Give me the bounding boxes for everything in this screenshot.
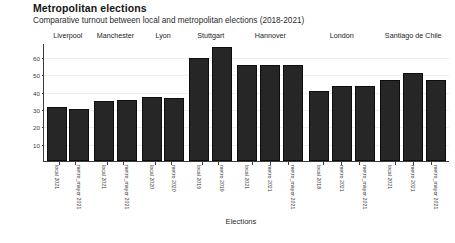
bar <box>355 86 375 161</box>
facet-strip-label: Liverpool <box>44 31 92 44</box>
y-axis: 102030405060 <box>33 44 44 162</box>
x-axis-tick-label: local 2021 <box>237 165 257 211</box>
x-axis-tick-label: metro 2021 <box>332 165 352 211</box>
x-axis-tick-label-text: metro 2020 <box>171 165 177 192</box>
facet-hannover: Hannoverlocal 2021metro 2021metro_mayor … <box>235 31 306 211</box>
x-axis-tick-labels: local 2019metro 2019 <box>187 165 235 211</box>
bar <box>260 65 280 161</box>
bar <box>426 80 446 161</box>
x-axis-tick-label: local 2019 <box>189 165 209 211</box>
facet-panel <box>44 44 92 162</box>
chart-page: Metropolitan elections Comparative turno… <box>0 0 455 243</box>
bar <box>283 65 303 161</box>
x-axis-tick-label-text: metro_mayor 2021 <box>76 165 82 209</box>
bar <box>237 65 257 161</box>
x-axis-tick-label-text: metro 2021 <box>339 165 345 192</box>
bar <box>47 107 67 161</box>
x-axis-tick-label: local 2021 <box>94 165 114 211</box>
facet-manchester: Manchesterlocal 2021metro_mayor 2021 <box>92 31 140 211</box>
bar <box>69 109 89 161</box>
facet-strip-label: Manchester <box>92 31 140 44</box>
bar <box>94 101 114 161</box>
facet-strip-label: Stuttgart <box>187 31 235 44</box>
bar <box>309 91 329 161</box>
bar <box>189 58 209 161</box>
x-axis-tick-label: metro 2019 <box>212 165 232 211</box>
facet-strip-label: Hannover <box>235 31 306 44</box>
y-axis-tick-label: 20 <box>33 124 40 131</box>
bar <box>142 97 162 161</box>
x-axis-tick-label: local 2021 <box>47 165 67 211</box>
facet-panel <box>139 44 187 162</box>
x-axis-tick-labels: local 2021metro 2021metro_mayor 2021 <box>235 165 306 211</box>
facet-strip-label: London <box>306 31 377 44</box>
facet-stuttgart: Stuttgartlocal 2019metro 2019 <box>187 31 235 211</box>
x-axis-tick-labels: local 2018metro 2021metro_mayor 2021 <box>306 165 377 211</box>
x-axis-tick-labels: local 2021metro_mayor 2021 <box>44 165 92 211</box>
facet-london: Londonlocal 2018metro 2021metro_mayor 20… <box>306 31 377 211</box>
facet-liverpool: Liverpoollocal 2021metro_mayor 2021 <box>44 31 92 211</box>
x-axis-tick-label-text: metro 2019 <box>219 165 225 192</box>
x-axis-tick-label-text: local 2021 <box>101 165 107 189</box>
facet-strip-label: Santiago de Chile <box>378 31 449 44</box>
x-axis-tick-label: metro 2021 <box>260 165 280 211</box>
bar <box>380 80 400 161</box>
chart-title: Metropolitan elections <box>33 2 147 14</box>
x-axis-tick-label: local 2020 <box>142 165 162 211</box>
bar-group <box>44 44 92 161</box>
bar-group <box>235 44 306 161</box>
x-axis-tick-label: metro_mayor 2021 <box>69 165 89 211</box>
x-axis-tick-label: metro_mayor 2021 <box>426 165 446 211</box>
x-axis-tick-label: metro_mayor 2021 <box>117 165 137 211</box>
x-axis-tick-label-text: metro 2021 <box>410 165 416 192</box>
x-axis-tick-label-text: local 2020 <box>149 165 155 189</box>
x-axis-tick-label-text: metro 2021 <box>267 165 273 192</box>
bar <box>164 98 184 161</box>
x-axis-tick-label: metro 2020 <box>164 165 184 211</box>
x-axis-tick-label-text: metro_mayor 2021 <box>124 165 130 209</box>
bar-group <box>139 44 187 161</box>
y-axis-tick-label: 10 <box>33 141 40 148</box>
bar-group <box>92 44 140 161</box>
x-axis-tick-label-text: metro_mayor 2021 <box>290 165 296 209</box>
x-axis-tick-labels: local 2021metro 2021metro_mayor 2021 <box>378 165 449 211</box>
facet-panel <box>187 44 235 162</box>
facet-panel <box>235 44 306 162</box>
x-axis-tick-label-text: metro_mayor 2021 <box>362 165 368 209</box>
x-axis-tick-labels: local 2021metro_mayor 2021 <box>92 165 140 211</box>
x-axis-tick-label: metro 2021 <box>403 165 423 211</box>
x-axis-tick-label-text: metro_mayor 2021 <box>433 165 439 209</box>
y-axis-tick-label: 50 <box>33 72 40 79</box>
chart-subtitle: Comparative turnout between local and me… <box>33 16 304 25</box>
facet-row: Liverpoollocal 2021metro_mayor 2021Manch… <box>44 31 449 211</box>
x-axis-tick-labels: local 2020metro 2020 <box>139 165 187 211</box>
x-axis-tick-label-text: local 2018 <box>316 165 322 189</box>
bar <box>403 73 423 161</box>
x-axis-tick-label-text: local 2021 <box>387 165 393 189</box>
x-axis-tick-label-text: local 2021 <box>54 165 60 189</box>
bar <box>117 100 137 161</box>
y-axis-tick-label: 40 <box>33 89 40 96</box>
x-axis-tick-label: local 2021 <box>380 165 400 211</box>
facet-strip-label: Lyon <box>139 31 187 44</box>
x-axis-title: Elections <box>33 217 449 226</box>
facet-panel <box>92 44 140 162</box>
bar-group <box>306 44 377 161</box>
facet-santiago-de-chile: Santiago de Chilelocal 2021metro 2021met… <box>378 31 449 211</box>
bar <box>212 47 232 161</box>
x-axis-tick-label-text: local 2019 <box>196 165 202 189</box>
y-axis-tick-label: 30 <box>33 106 40 113</box>
bar-group <box>187 44 235 161</box>
facet-panel <box>306 44 377 162</box>
x-axis-tick-label: local 2018 <box>309 165 329 211</box>
y-axis-tick-label: 60 <box>33 54 40 61</box>
x-axis-tick-label: metro_mayor 2021 <box>283 165 303 211</box>
x-axis-tick-label: metro_mayor 2021 <box>355 165 375 211</box>
facet-lyon: Lyonlocal 2020metro 2020 <box>139 31 187 211</box>
bar <box>332 86 352 161</box>
x-axis-tick-label-text: local 2021 <box>244 165 250 189</box>
bar-group <box>378 44 449 161</box>
facet-panel <box>378 44 449 162</box>
plot-area: % turnout 102030405060 Liverpoollocal 20… <box>33 31 449 220</box>
